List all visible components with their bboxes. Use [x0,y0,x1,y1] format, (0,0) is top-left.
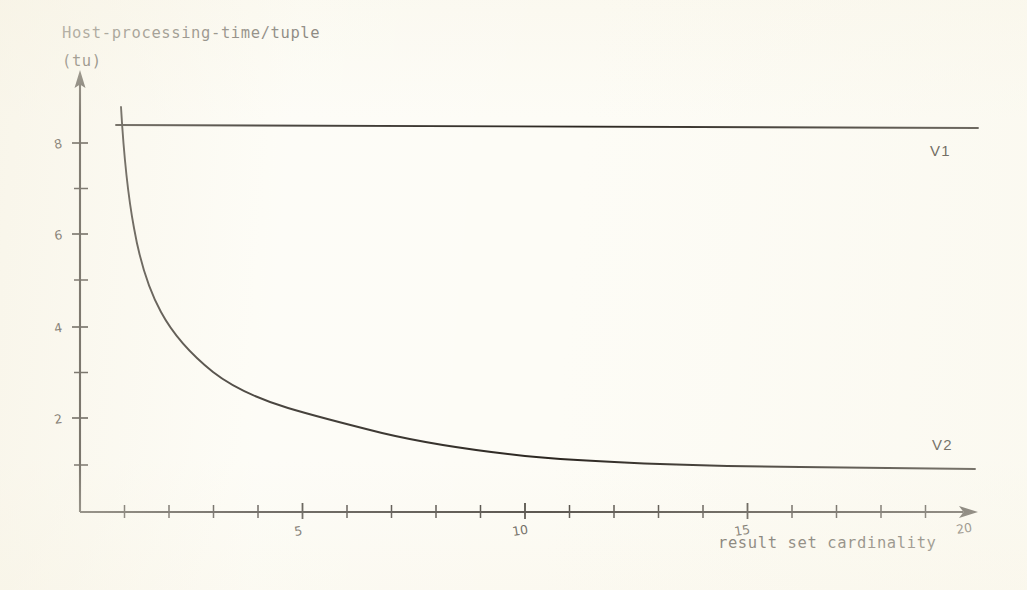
series-label-v2: V2 [932,436,953,453]
y-axis-title-line1: Host-processing-time/tuple [62,24,320,42]
v1-line [116,125,978,128]
y-tick-label-2: 2 [53,411,63,427]
series-v2-curve [121,107,975,469]
y-tick-label-4: 4 [53,320,63,336]
x-tick-label-20: 20 [955,520,973,537]
x-tick-label-5: 5 [293,523,303,539]
y-axis [75,70,86,512]
y-axis-tick-labels: 8 6 4 2 [53,136,64,427]
x-axis [80,506,978,518]
y-axis-title-line2: (tu) [62,52,102,70]
v2-line [121,107,975,469]
x-axis-title: result set cardinality [718,534,937,552]
x-tick-label-10: 10 [511,522,529,539]
y-tick-label-6: 6 [53,227,63,243]
y-tick-label-8: 8 [53,136,64,152]
chart-plot: 8 6 4 2 5 [0,0,1027,590]
figure-canvas: 8 6 4 2 5 [0,0,1027,590]
series-v1-curve [116,125,978,128]
series-label-v1: V1 [930,142,951,159]
